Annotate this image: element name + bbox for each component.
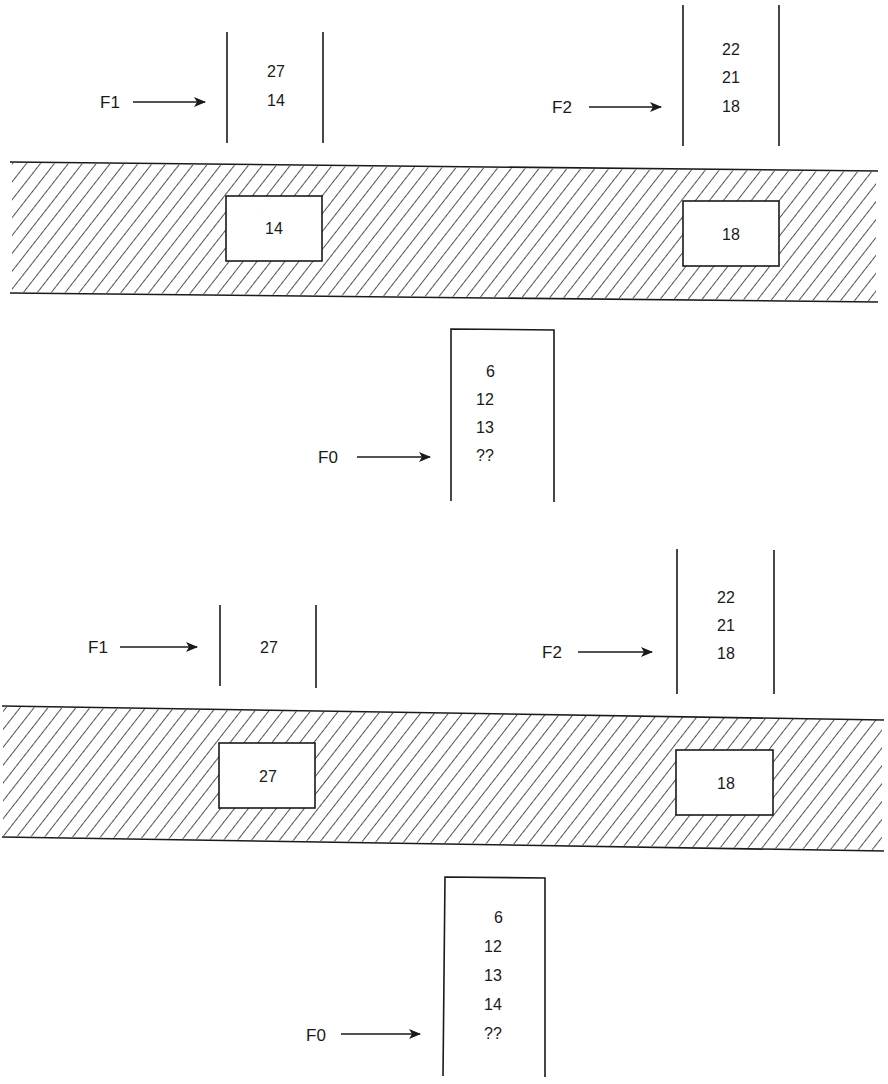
file-f2: F2 22 21 18 <box>542 549 774 694</box>
file-f1: F1 27 <box>88 605 316 688</box>
f0-label: F0 <box>306 1026 326 1045</box>
f0-value: 12 <box>476 391 494 408</box>
f2-label: F2 <box>542 643 562 662</box>
file-f2: F2 22 21 18 <box>552 5 779 146</box>
f0-value: 6 <box>494 909 503 926</box>
f0-value: 13 <box>484 967 502 984</box>
f0-value: 12 <box>484 938 502 955</box>
f2-label: F2 <box>552 98 572 117</box>
buffer-right-value: 18 <box>722 226 740 243</box>
merge-diagram: F1 27 14 F2 22 21 18 14 18 <box>0 0 888 1084</box>
f2-value: 18 <box>717 645 735 662</box>
f1-label: F1 <box>100 93 120 112</box>
memory-band: 27 18 <box>2 706 884 851</box>
f2-value: 22 <box>722 41 740 58</box>
f0-value: ?? <box>484 1025 502 1042</box>
file-f1: F1 27 14 <box>100 32 323 143</box>
f1-value: 27 <box>267 63 285 80</box>
buffer-right-value: 18 <box>717 775 735 792</box>
f0-value: ?? <box>476 447 494 464</box>
file-f0: F0 6 12 13 14 ?? <box>306 877 545 1077</box>
f1-label: F1 <box>88 638 108 657</box>
memory-band: 14 18 <box>10 162 878 302</box>
f1-value: 14 <box>267 92 285 109</box>
buffer-left-value: 14 <box>265 220 283 237</box>
f2-value: 18 <box>722 98 740 115</box>
buffer-left-value: 27 <box>259 768 277 785</box>
f0-file-outline <box>451 329 554 502</box>
panel-after: F1 27 F2 22 21 18 27 18 <box>2 549 884 1077</box>
panel-before: F1 27 14 F2 22 21 18 14 18 <box>10 5 878 502</box>
file-f0: F0 6 12 13 ?? <box>318 329 554 502</box>
f2-value: 22 <box>717 589 735 606</box>
f0-value: 6 <box>486 363 495 380</box>
f0-value: 13 <box>476 419 494 436</box>
f0-label: F0 <box>318 448 338 467</box>
f2-value: 21 <box>722 69 740 86</box>
f0-value: 14 <box>484 996 502 1013</box>
f2-value: 21 <box>717 617 735 634</box>
f1-value: 27 <box>260 639 278 656</box>
